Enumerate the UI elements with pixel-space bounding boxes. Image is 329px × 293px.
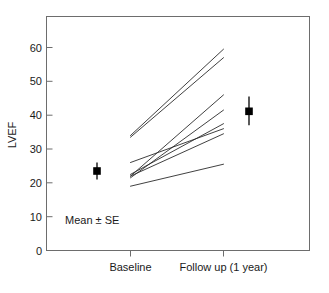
y-tick-label-50: 50: [30, 75, 42, 87]
mean-marker-followup: [245, 108, 253, 116]
x-tick-label-baseline: Baseline: [109, 261, 151, 273]
y-tick-label-0: 0: [36, 245, 42, 257]
mean-marker-baseline: [93, 167, 101, 175]
lvef-spaghetti-chart: 60 50 40 30 20 10 0 LVEF Baseline Follow…: [0, 0, 329, 293]
y-axis-label: LVEF: [6, 121, 18, 148]
x-axis-ticks: [131, 251, 224, 257]
chart-figure: 60 50 40 30 20 10 0 LVEF Baseline Follow…: [0, 0, 329, 293]
y-tick-label-40: 40: [30, 109, 42, 121]
y-tick-labels: 60 50 40 30 20 10 0: [30, 42, 42, 257]
y-tick-label-60: 60: [30, 42, 42, 54]
x-tick-label-followup: Follow up (1 year): [179, 261, 267, 273]
y-tick-label-10: 10: [30, 211, 42, 223]
y-tick-label-30: 30: [30, 143, 42, 155]
y-tick-label-20: 20: [30, 177, 42, 189]
mean-se-annotation: Mean ± SE: [65, 214, 119, 226]
